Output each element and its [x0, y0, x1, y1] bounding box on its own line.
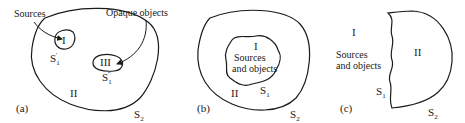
- left-text-line-2: and objects: [336, 60, 381, 71]
- panel-c: I Sources and objects II S1 S2 (c): [336, 11, 452, 121]
- panel-c-label: (c): [340, 102, 353, 115]
- surface-s2-label: S2: [428, 106, 438, 121]
- region-ii-label: II: [414, 46, 422, 58]
- panel-a: Sources Opaque objects I III II S1′ S1″ …: [14, 7, 168, 123]
- surface-boundary-curve: [388, 11, 452, 108]
- surface-s2-label: S2: [134, 108, 144, 123]
- region-ii-label: II: [70, 87, 78, 99]
- panel-b: I Sources and objects II S1 S2 (b): [197, 10, 310, 123]
- region-i-label: I: [254, 40, 258, 52]
- left-text-line-1: Sources: [336, 49, 368, 60]
- region-ii-label: II: [231, 87, 239, 99]
- surface-s1-label: S1: [260, 84, 270, 99]
- region-i-label: I: [352, 26, 356, 38]
- panel-b-label: (b): [197, 102, 210, 115]
- region-i-label: I: [62, 34, 66, 46]
- inner-text-line-1: Sources: [234, 52, 266, 63]
- panel-a-label: (a): [16, 102, 29, 115]
- surface-s1doubleprime-label: S1″: [102, 70, 112, 86]
- opaque-objects-arrow: [117, 20, 146, 64]
- opaque-objects-annotation: Opaque objects: [106, 7, 168, 18]
- surface-s1-label: S1: [376, 85, 386, 100]
- sources-annotation: Sources: [14, 8, 46, 19]
- figure: Sources Opaque objects I III II S1′ S1″ …: [0, 0, 465, 123]
- surface-s2-label: S2: [290, 108, 300, 123]
- inner-text-line-2: and objects: [232, 63, 277, 74]
- surface-s1prime-label: S1′: [50, 51, 60, 67]
- region-iii-label: III: [100, 56, 111, 68]
- sources-arrow: [34, 22, 62, 39]
